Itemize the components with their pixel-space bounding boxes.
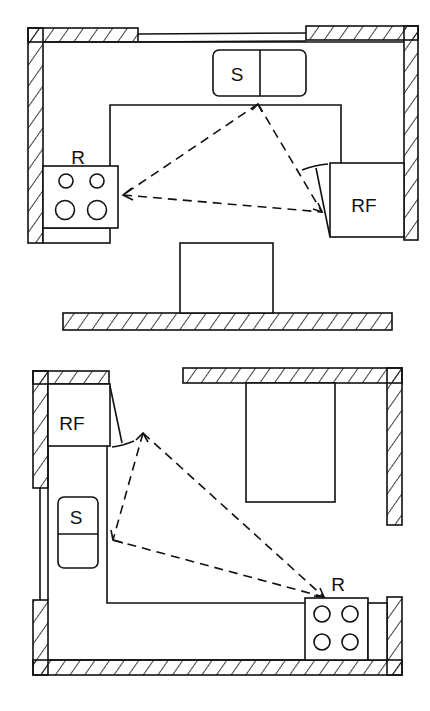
wall-bottom	[33, 660, 402, 675]
island	[246, 383, 335, 502]
island	[180, 243, 273, 313]
work-triangle	[123, 104, 322, 212]
wall-right-lower	[387, 597, 402, 675]
refrigerator-label: RF	[59, 413, 84, 434]
counter-edge	[110, 105, 341, 166]
arrowhead-icon	[313, 203, 322, 212]
window-left	[40, 488, 48, 600]
arrowhead-icon	[111, 530, 123, 543]
range-cooktop	[305, 598, 368, 660]
door-swing	[110, 386, 122, 443]
sink-label: S	[231, 64, 244, 85]
range: R	[43, 147, 118, 244]
sink-label: S	[70, 507, 83, 528]
wall-top-left	[28, 28, 138, 42]
wall-top-right	[306, 26, 418, 40]
door-swing	[316, 168, 330, 237]
refrigerator-label: RF	[351, 195, 376, 216]
sink: S	[58, 497, 98, 568]
range-base-strip	[43, 228, 110, 243]
l-shaped-kitchen-plan: RF S R	[33, 368, 402, 675]
range: R	[305, 574, 387, 661]
wall-right	[404, 26, 418, 240]
kitchen-work-triangle-diagrams: S R RF	[0, 0, 430, 711]
range-label: R	[331, 574, 345, 595]
range-side-counter	[368, 603, 387, 660]
sink: S	[213, 50, 306, 96]
wall-left	[28, 28, 43, 243]
window-top	[138, 33, 306, 42]
refrigerator: RF	[302, 163, 404, 237]
door-swing-arc	[302, 164, 328, 170]
range-label: R	[71, 147, 85, 168]
wall-right-upper	[387, 368, 402, 525]
wall-top-right	[183, 368, 402, 383]
wall-left-upper	[33, 371, 48, 488]
door-swing-arc	[112, 441, 134, 447]
u-shaped-kitchen-plan: S R RF	[28, 26, 418, 330]
wall-bottom	[63, 313, 392, 330]
range-cooktop	[43, 166, 118, 228]
refrigerator: RF	[48, 384, 134, 447]
